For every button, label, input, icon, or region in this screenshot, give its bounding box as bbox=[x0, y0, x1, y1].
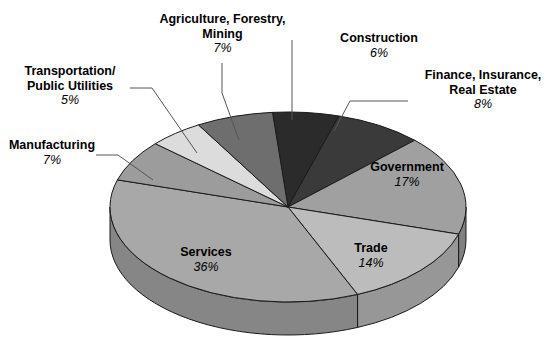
callout-finance-line2: Real Estate bbox=[449, 83, 516, 97]
callout-agriculture: Agriculture, Forestry, Mining 7% bbox=[139, 12, 306, 56]
callout-finance-pct: 8% bbox=[409, 97, 557, 112]
callout-agriculture-pct: 7% bbox=[139, 41, 306, 56]
callout-construction-pct: 6% bbox=[314, 46, 444, 61]
callout-construction-line1: Construction bbox=[340, 31, 418, 45]
inner-label-government: Government 17% bbox=[352, 160, 462, 189]
inner-label-trade: Trade 14% bbox=[334, 241, 408, 270]
callout-transportation-line1: Transportation/ bbox=[25, 64, 116, 78]
callout-transportation-line2: Public Utilities bbox=[27, 79, 113, 93]
callout-agriculture-line2: Mining bbox=[202, 27, 242, 41]
inner-label-services: Services 36% bbox=[161, 245, 251, 274]
callout-manufacturing-pct: 7% bbox=[6, 153, 98, 168]
callout-finance: Finance, Insurance, Real Estate 8% bbox=[409, 68, 557, 112]
callout-manufacturing: Manufacturing 7% bbox=[6, 138, 98, 167]
callout-construction: Construction 6% bbox=[314, 31, 444, 60]
callout-transportation: Transportation/ Public Utilities 5% bbox=[10, 64, 130, 108]
callout-agriculture-line1: Agriculture, Forestry, bbox=[159, 12, 285, 26]
inner-label-services-name: Services bbox=[180, 245, 231, 259]
inner-label-trade-name: Trade bbox=[354, 241, 387, 255]
callout-transportation-pct: 5% bbox=[10, 93, 130, 108]
inner-label-government-name: Government bbox=[370, 160, 444, 174]
inner-label-government-pct: 17% bbox=[352, 175, 462, 190]
callout-finance-line1: Finance, Insurance, bbox=[425, 68, 542, 82]
inner-label-services-pct: 36% bbox=[161, 260, 251, 275]
pie-chart-figure: Agriculture, Forestry, Mining 7% Constru… bbox=[0, 0, 559, 360]
callout-manufacturing-line1: Manufacturing bbox=[9, 138, 95, 152]
inner-label-trade-pct: 14% bbox=[334, 256, 408, 271]
